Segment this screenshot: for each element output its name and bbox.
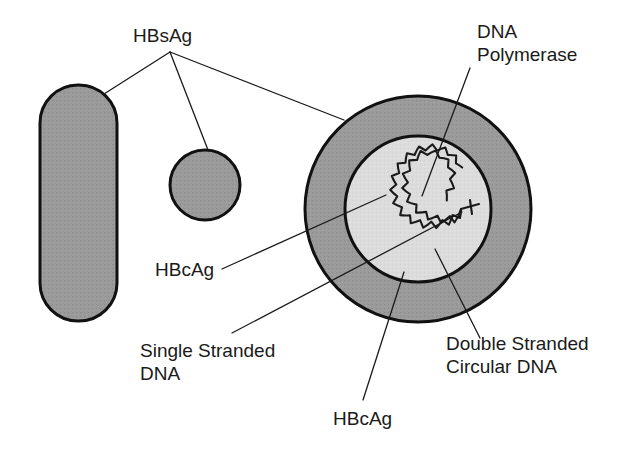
label-single-stranded-dna-line1: Single Stranded xyxy=(140,340,275,361)
spherical-hbsag-particle xyxy=(170,150,240,220)
label-dna-polymerase-line1: DNA xyxy=(477,21,517,42)
label-hbcag-bottom: HBcAg xyxy=(333,408,392,429)
diagram-canvas: HBsAg DNA Polymerase HBcAg Single Strand… xyxy=(0,0,638,452)
leader-hbsag-to-sphere xyxy=(170,52,208,150)
label-single-stranded-dna-line2: DNA xyxy=(140,363,180,384)
filamentous-hbsag-particle xyxy=(40,85,117,321)
hbv-structure-diagram: HBsAg DNA Polymerase HBcAg Single Strand… xyxy=(0,0,638,452)
label-double-stranded-dna-line1: Double Stranded xyxy=(446,333,589,354)
label-hbcag-left: HBcAg xyxy=(155,259,214,280)
leader-hbsag-to-filament xyxy=(104,52,170,94)
label-dna-polymerase-line2: Polymerase xyxy=(477,44,577,65)
leader-hbsag-to-envelope xyxy=(170,52,344,120)
label-hbsag-top: HBsAg xyxy=(133,25,192,46)
label-double-stranded-dna-line2: Circular DNA xyxy=(446,356,557,377)
